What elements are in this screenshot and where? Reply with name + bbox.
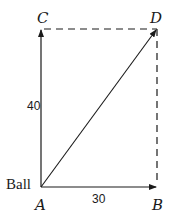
resultant-arrow-ad	[41, 30, 156, 187]
magnitude-label-40: 40	[27, 99, 41, 113]
magnitude-label-30: 30	[92, 192, 106, 206]
point-label-b: B	[151, 196, 163, 214]
ball-label: Ball	[6, 176, 31, 192]
vector-diagram: C D A B Ball 40 30	[0, 0, 173, 217]
point-label-a: A	[33, 196, 46, 214]
point-label-d: D	[149, 9, 162, 27]
point-label-c: C	[37, 9, 49, 27]
